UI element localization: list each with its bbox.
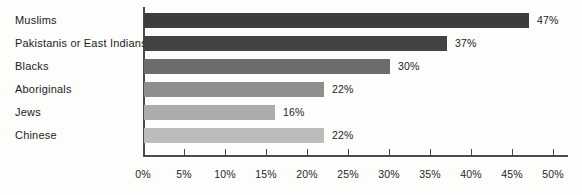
bar	[144, 36, 447, 51]
x-axis-tick-label: 50%	[535, 168, 571, 180]
bar	[144, 128, 324, 143]
x-axis-tick-label: 35%	[412, 168, 448, 180]
x-axis-tick	[512, 149, 513, 155]
x-axis-tick	[348, 149, 349, 155]
x-axis-tick	[389, 149, 390, 155]
x-axis-tick	[184, 149, 185, 155]
x-axis-tick	[266, 149, 267, 155]
x-axis-tick-label: 20%	[289, 168, 325, 180]
bar	[144, 82, 324, 97]
category-label: Muslims	[15, 13, 57, 28]
x-axis-tick	[553, 149, 554, 155]
x-axis-tick-label: 45%	[494, 168, 530, 180]
category-label: Blacks	[15, 59, 49, 74]
x-axis-tick-label: 0%	[125, 168, 161, 180]
category-label: Aboriginals	[15, 82, 72, 97]
category-label: Pakistanis or East Indians	[15, 36, 147, 51]
x-axis-tick	[225, 149, 226, 155]
bar	[144, 13, 529, 28]
x-axis-tick	[471, 149, 472, 155]
x-axis-tick-label: 40%	[453, 168, 489, 180]
category-label: Chinese	[15, 128, 57, 143]
x-axis-tick-label: 25%	[330, 168, 366, 180]
x-axis-tick-label: 5%	[166, 168, 202, 180]
x-axis-tick	[430, 149, 431, 155]
value-label: 22%	[332, 82, 354, 97]
x-axis-tick-label: 10%	[207, 168, 243, 180]
x-axis-tick	[307, 149, 308, 155]
bar	[144, 105, 275, 120]
x-axis-line	[143, 155, 568, 157]
bar-chart: Muslims47%Pakistanis or East Indians37%B…	[0, 0, 582, 195]
value-label: 16%	[283, 105, 305, 120]
category-label: Jews	[15, 105, 41, 120]
value-label: 22%	[332, 128, 354, 143]
x-axis-tick-label: 30%	[371, 168, 407, 180]
value-label: 37%	[455, 36, 477, 51]
x-axis-tick-label: 15%	[248, 168, 284, 180]
bar	[144, 59, 390, 74]
value-label: 30%	[398, 59, 420, 74]
x-axis-tick	[143, 149, 144, 155]
plot-area: Muslims47%Pakistanis or East Indians37%B…	[0, 0, 582, 195]
value-label: 47%	[537, 13, 559, 28]
